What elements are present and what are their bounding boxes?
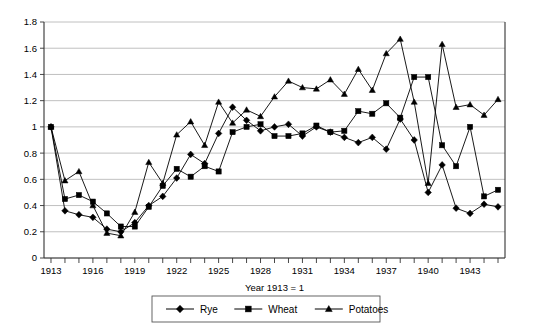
data-point [384, 101, 389, 106]
data-point [285, 78, 291, 83]
legend-label: Rye [200, 304, 218, 315]
data-point [215, 130, 222, 137]
data-point [132, 209, 138, 214]
y-tick-label: 1 [32, 121, 37, 132]
x-tick-label: 1940 [418, 265, 439, 276]
data-point [341, 134, 348, 141]
data-point [174, 166, 179, 171]
data-point [216, 99, 222, 104]
x-tick-label: 1916 [82, 265, 103, 276]
legend-marker-square-icon [245, 306, 251, 312]
x-tick-label: 1928 [250, 265, 271, 276]
x-tick-label: 1913 [40, 265, 61, 276]
x-axis-ticks-group [51, 258, 498, 263]
y-tick-label: 0.6 [24, 174, 37, 185]
legend-label: Potatoes [349, 304, 388, 315]
x-tick-label: 1925 [208, 265, 229, 276]
data-point [481, 194, 486, 199]
data-point [355, 66, 361, 71]
chart-container: 00.20.40.60.811.21.41.61.8 1913191619191… [0, 0, 536, 334]
data-point [62, 196, 67, 201]
data-point [370, 111, 375, 116]
data-point [300, 131, 305, 136]
y-tick-label: 1.2 [24, 95, 37, 106]
data-point [440, 143, 445, 148]
data-point [286, 133, 291, 138]
y-axis-ticks-group [40, 22, 44, 258]
data-point [467, 210, 474, 217]
data-point [76, 211, 83, 218]
data-point [314, 123, 319, 128]
gridlines-group [44, 22, 505, 258]
data-point [397, 36, 403, 41]
data-point [411, 137, 418, 144]
x-tick-label: 1931 [292, 265, 313, 276]
x-tick-label: 1943 [460, 265, 481, 276]
data-point [328, 130, 333, 135]
data-point [426, 74, 431, 79]
data-point [299, 84, 305, 89]
data-point [104, 211, 109, 216]
y-tick-label: 0 [32, 252, 37, 263]
data-point [202, 164, 207, 169]
data-point [411, 99, 417, 104]
data-point [188, 119, 194, 124]
data-point [132, 224, 137, 229]
data-point [439, 162, 446, 169]
data-point [118, 224, 123, 229]
data-point [202, 142, 208, 147]
y-tick-label: 1.8 [24, 16, 37, 27]
data-point [398, 115, 403, 120]
legend-label: Wheat [268, 304, 297, 315]
data-point [146, 204, 151, 209]
legend-item-potatoes[interactable]: Potatoes [315, 304, 388, 315]
data-point [439, 41, 445, 46]
data-point [258, 122, 263, 127]
y-tick-label: 1.6 [24, 43, 37, 54]
data-point [425, 189, 432, 196]
data-point [104, 230, 110, 235]
data-point [62, 178, 68, 183]
data-point [271, 124, 278, 131]
data-point [342, 128, 347, 133]
data-point [356, 109, 361, 114]
data-point [412, 74, 417, 79]
data-point [76, 168, 82, 173]
axis-lines-group [44, 22, 505, 258]
x-tick-label: 1922 [166, 265, 187, 276]
data-point [495, 96, 501, 101]
x-axis-tick-labels-group: 1913191619191922192519281931193419371940… [40, 265, 480, 276]
chart-legend: RyeWheatPotatoes [152, 296, 388, 322]
line-chart-svg: 00.20.40.60.811.21.41.61.8 1913191619191… [0, 0, 536, 334]
data-point [244, 124, 249, 129]
series-rye [48, 104, 502, 235]
data-point [327, 77, 333, 82]
legend-item-rye[interactable]: Rye [166, 304, 218, 315]
x-tick-label: 1937 [376, 265, 397, 276]
data-point [243, 107, 249, 112]
data-point [146, 159, 152, 164]
data-series-group [48, 36, 502, 238]
y-tick-label: 0.2 [24, 226, 37, 237]
data-point [355, 139, 362, 146]
data-point [495, 187, 500, 192]
data-point [230, 130, 235, 135]
data-point [216, 169, 221, 174]
y-tick-label: 1.4 [24, 69, 37, 80]
data-point [369, 87, 375, 92]
legend-marker-diamond-icon [176, 305, 183, 313]
data-point [467, 124, 472, 129]
data-point [62, 207, 69, 214]
data-point [187, 151, 194, 158]
data-point [481, 201, 488, 208]
data-point [495, 203, 502, 210]
legend-item-wheat[interactable]: Wheat [234, 304, 297, 315]
data-point [454, 164, 459, 169]
y-axis-tick-labels-group: 00.20.40.60.811.21.41.61.8 [24, 16, 37, 263]
data-point [272, 133, 277, 138]
y-tick-label: 0.4 [24, 200, 37, 211]
data-point [257, 127, 264, 134]
data-point [467, 102, 473, 107]
y-tick-label: 0.8 [24, 148, 37, 159]
x-axis-title: Year 1913 = 1 [245, 282, 304, 293]
